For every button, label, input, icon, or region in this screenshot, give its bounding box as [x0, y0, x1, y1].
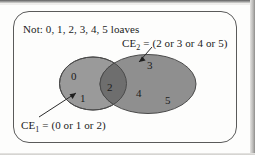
region-label-3: 3	[147, 60, 153, 71]
region-label-1: 1	[80, 93, 86, 104]
ce2-name: CE	[122, 37, 136, 49]
ce1-name: CE	[21, 119, 35, 131]
ce1-definition: = (0 or 1 or 2)	[39, 119, 105, 131]
ce1-caption: CE1 = (0 or 1 or 2)	[21, 119, 106, 131]
ce2-caption: CE2 = (2 or 3 or 4 or 5)	[122, 37, 228, 49]
scanned-page: Not: 0, 1, 2, 3, 4, 5 loaves CE2 = (2 or…	[0, 0, 255, 155]
universe-label: Not: 0, 1, 2, 3, 4, 5 loaves	[23, 23, 139, 35]
ce1-leader-line	[39, 93, 76, 117]
region-label-0: 0	[71, 71, 77, 82]
region-label-4: 4	[136, 88, 142, 99]
region-label-2: 2	[107, 82, 113, 93]
ce2-definition: = (2 or 3 or 4 or 5)	[140, 37, 227, 49]
region-label-5: 5	[165, 95, 171, 106]
